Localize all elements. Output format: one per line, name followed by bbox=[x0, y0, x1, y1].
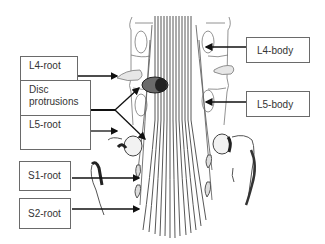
disc-protrusion-arrow-lower bbox=[115, 110, 145, 139]
label-s1-root: S1-root bbox=[19, 161, 71, 191]
label-l4-root: L4-root bbox=[20, 56, 78, 81]
label-l5-root-text: L5-root bbox=[29, 119, 90, 131]
label-l5-root: L5-root bbox=[20, 115, 91, 150]
label-disc-protrusions-line1: Disc bbox=[29, 84, 90, 96]
label-disc-protrusions: Disc protrusions bbox=[20, 80, 91, 116]
pelvis-right bbox=[205, 134, 255, 205]
label-s2-root: S2-root bbox=[19, 198, 71, 229]
label-s1-root-text: S1-root bbox=[28, 170, 70, 182]
label-l4-root-text: L4-root bbox=[29, 60, 77, 72]
label-l4-body: L4-body bbox=[246, 37, 310, 63]
label-l4-body-text: L4-body bbox=[257, 45, 309, 57]
label-l5-body: L5-body bbox=[246, 91, 310, 117]
pelvis-left bbox=[91, 136, 142, 215]
vertebral-column bbox=[117, 17, 234, 125]
label-s2-root-text: S2-root bbox=[28, 208, 70, 220]
cauda-equina-fibers bbox=[138, 16, 212, 238]
label-disc-protrusions-line2: protrusions bbox=[29, 96, 90, 108]
label-l5-body-text: L5-body bbox=[257, 99, 309, 111]
